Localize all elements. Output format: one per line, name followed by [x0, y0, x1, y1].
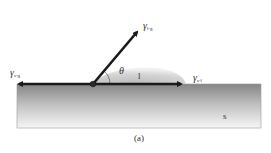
subscript: l-g: [147, 26, 153, 31]
label-gamma-solid-gas: γs-g: [10, 68, 20, 78]
diagram-graphic: [0, 0, 271, 153]
figure-caption: (a): [134, 134, 144, 143]
subscript: s-g: [14, 73, 20, 78]
label-solid: s: [223, 112, 227, 121]
contact-point: [90, 81, 96, 87]
label-gamma-solid-liquid: γs-l: [193, 73, 202, 83]
label-gamma-liquid-gas: γl-g: [143, 21, 153, 31]
solid-substrate: [17, 84, 261, 128]
label-theta: θ: [119, 66, 124, 76]
label-liquid: l: [138, 72, 141, 81]
contact-angle-diagram: γs-g γl-g γs-l θ l s (a): [0, 0, 271, 153]
subscript: s-l: [197, 78, 202, 83]
